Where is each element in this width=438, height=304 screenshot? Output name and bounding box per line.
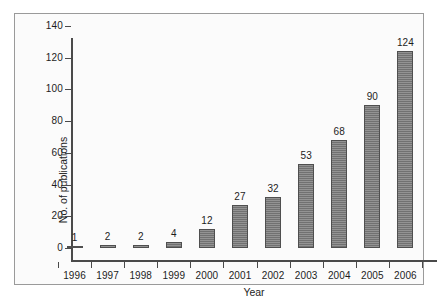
bar <box>331 140 347 248</box>
x-tick-mark <box>257 262 258 268</box>
bar-value-label: 4 <box>157 228 190 239</box>
bar <box>133 245 149 248</box>
x-tick-label: 1996 <box>58 270 91 281</box>
x-tick-mark <box>91 262 92 268</box>
x-tick-mark <box>422 262 423 268</box>
bar-value-label: 68 <box>323 126 356 137</box>
y-tick-label-container: 120 <box>19 52 63 64</box>
y-tick-mark <box>65 153 71 154</box>
y-tick-mark <box>65 58 71 59</box>
figure-frame: No. of publications 020406080100120140 1… <box>14 13 424 285</box>
bar-value-label: 27 <box>223 191 256 202</box>
y-tick-label-container: 80 <box>19 115 63 127</box>
bar <box>298 164 314 248</box>
x-tick-mark <box>290 262 291 268</box>
x-tick-label: 2005 <box>356 270 389 281</box>
y-tick-label: 140 <box>23 20 63 31</box>
x-tick-label: 2002 <box>257 270 290 281</box>
y-tick-label: 60 <box>23 147 63 158</box>
y-tick-label: 40 <box>23 179 63 190</box>
y-tick-label-container: 100 <box>19 83 63 95</box>
x-tick-label: 1999 <box>157 270 190 281</box>
bar-value-label: 2 <box>124 231 157 242</box>
bar-value-label: 53 <box>290 150 323 161</box>
y-tick-mark <box>65 89 71 90</box>
x-tick-label: 2004 <box>323 270 356 281</box>
bar <box>397 51 413 248</box>
x-tick-mark <box>389 262 390 268</box>
y-tick-label: 100 <box>23 83 63 94</box>
x-tick-mark <box>190 262 191 268</box>
bar-value-label: 12 <box>190 215 223 226</box>
x-tick-mark <box>157 262 158 268</box>
y-tick-label: 120 <box>23 52 63 63</box>
bar <box>166 242 182 248</box>
bar-value-label: 124 <box>389 37 422 48</box>
x-tick-label: 2003 <box>290 270 323 281</box>
chart-figure: No. of publications 020406080100120140 1… <box>0 0 438 304</box>
y-tick-mark <box>65 185 71 186</box>
y-tick-label-container: 140 <box>19 20 63 32</box>
x-tick-label: 1998 <box>124 270 157 281</box>
x-tick-label: 2006 <box>389 270 422 281</box>
x-tick-label: 2000 <box>190 270 223 281</box>
x-tick-mark <box>323 262 324 268</box>
bar-value-label: 2 <box>91 231 124 242</box>
y-tick-label-container: 60 <box>19 147 63 159</box>
y-tick-label-container: 20 <box>19 210 63 222</box>
bar <box>100 245 116 248</box>
bar <box>67 246 83 248</box>
bar-value-label: 90 <box>356 91 389 102</box>
x-tick-mark <box>223 262 224 268</box>
y-axis-line <box>71 38 73 262</box>
x-tick-label: 1997 <box>91 270 124 281</box>
bar-value-label: 32 <box>257 183 290 194</box>
x-axis-line <box>71 260 437 262</box>
y-tick-mark <box>65 216 71 217</box>
y-tick-label: 80 <box>23 115 63 126</box>
y-tick-label-container: 0 <box>19 242 63 254</box>
y-tick-mark <box>65 26 71 27</box>
x-tick-mark <box>356 262 357 268</box>
x-tick-mark <box>58 262 59 268</box>
bar <box>232 205 248 248</box>
y-tick-label: 20 <box>23 210 63 221</box>
y-tick-mark <box>65 121 71 122</box>
bar-value-label: 1 <box>58 232 91 243</box>
x-tick-mark <box>124 262 125 268</box>
y-tick-label-container: 40 <box>19 179 63 191</box>
bar <box>265 197 281 248</box>
x-tick-label: 2001 <box>223 270 256 281</box>
bar <box>364 105 380 248</box>
x-axis-label: Year <box>72 286 436 298</box>
bar <box>199 229 215 248</box>
y-tick-label: 0 <box>23 242 63 253</box>
